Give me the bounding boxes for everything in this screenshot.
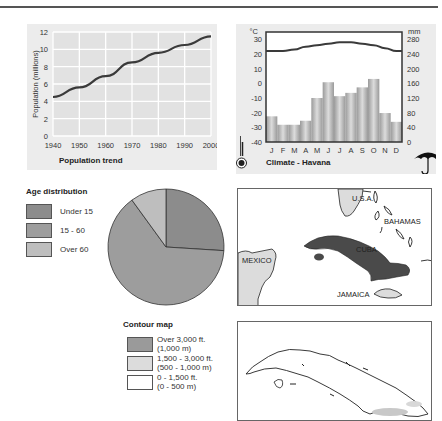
- x-tick-label: 1950: [71, 141, 88, 150]
- contour-label-line1: 1,500 - 3,000 ft.: [157, 354, 213, 363]
- rainfall-bar: [277, 125, 288, 142]
- age-legend-label: Over 60: [60, 245, 88, 254]
- celsius-unit: °C: [250, 27, 259, 36]
- population-ylabel: Population (millions): [31, 50, 40, 118]
- rainfall-bar: [300, 121, 311, 142]
- rainfall-tick-label: 200: [407, 65, 420, 74]
- map-label-jamaica: JAMAICA: [337, 290, 370, 299]
- contour-label-line2: (1,000 m): [157, 344, 191, 353]
- contour-swatch-mid: [127, 356, 153, 371]
- contour-legend-label: Over 3,000 ft. (1,000 m): [157, 335, 205, 353]
- month-label: S: [360, 146, 365, 155]
- pie-slice: [166, 189, 224, 251]
- age-swatch-under-15: [26, 204, 52, 219]
- age-swatch-15-60: [26, 223, 52, 238]
- age-pie-chart: [105, 183, 229, 315]
- x-tick-label: 1970: [124, 141, 141, 150]
- contour-map: [237, 321, 432, 421]
- population-title: Population trend: [59, 156, 123, 165]
- contour-legend-item: 0 - 1,500 ft. (0 - 500 m): [127, 373, 197, 391]
- map-label-bahamas: BAHAMAS: [384, 217, 421, 226]
- top-rule: [0, 6, 438, 8]
- temperature-tick-label: 30: [254, 35, 262, 44]
- rainfall-bar: [289, 125, 300, 142]
- rainfall-bar: [311, 98, 322, 142]
- contour-label-line2: (0 - 500 m): [157, 382, 196, 391]
- locator-map-graphic: U.S.A. BAHAMAS CUBA MEXICO JAMAICA: [238, 189, 432, 306]
- jamaica: [374, 289, 402, 298]
- x-tick-label: 1940: [45, 141, 62, 150]
- y-tick-label: 0: [44, 132, 48, 141]
- contour-label-line1: 0 - 1,500 ft.: [157, 373, 197, 382]
- population-panel: 024681012 1940195019601970198019902000 P…: [27, 24, 217, 170]
- contour-label-line2: (500 - 1,000 m): [157, 363, 212, 372]
- rainfall-bar: [345, 93, 356, 142]
- temperature-tick-label: -30: [251, 123, 262, 132]
- contour-map-graphic: [238, 322, 432, 421]
- y-tick-label: 6: [44, 80, 48, 89]
- rainfall-bar: [266, 116, 277, 142]
- cuba-outline: [246, 349, 428, 416]
- rainfall-bar: [391, 122, 402, 142]
- mm-unit: mm: [408, 27, 421, 36]
- contour-swatch-low: [127, 375, 153, 390]
- rainfall-tick-label: 240: [407, 50, 420, 59]
- x-tick-label: 1990: [176, 141, 193, 150]
- temperature-tick-label: 10: [254, 65, 262, 74]
- age-legend-title: Age distribution: [26, 187, 87, 196]
- y-tick-label: 4: [44, 97, 48, 106]
- temperature-tick-label: -40: [251, 138, 262, 147]
- month-label: A: [348, 146, 353, 155]
- rainfall-bar: [323, 82, 334, 142]
- contour-legend-item: 1,500 - 3,000 ft. (500 - 1,000 m): [127, 354, 213, 372]
- x-tick-label: 1960: [97, 141, 114, 150]
- rainfall-bar: [334, 96, 345, 142]
- y-tick-label: 12: [40, 28, 48, 37]
- age-legend-item: Under 15: [26, 204, 93, 219]
- age-legend-item: 15 - 60: [26, 223, 85, 238]
- contour-label-line1: Over 3,000 ft.: [157, 335, 205, 344]
- contour-swatch-high: [127, 337, 153, 352]
- rainfall-bar: [368, 79, 379, 142]
- map-label-mexico: MEXICO: [242, 256, 272, 265]
- rainfall-tick-label: 160: [407, 79, 420, 88]
- rainfall-tick-label: 120: [407, 94, 420, 103]
- month-label: J: [270, 146, 274, 155]
- y-tick-label: 8: [44, 63, 48, 72]
- month-label: F: [281, 146, 286, 155]
- temperature-tick-label: 0: [258, 79, 262, 88]
- umbrella-icon: [414, 153, 436, 175]
- rainfall-bar: [357, 87, 368, 142]
- climate-chart: 3020100-10-20-30-40 28024020016012080400…: [236, 24, 436, 174]
- x-tick-label: 1980: [150, 141, 167, 150]
- rainfall-tick-label: 40: [407, 123, 415, 132]
- temperature-tick-label: -10: [251, 94, 262, 103]
- y-tick-label: 2: [44, 115, 48, 124]
- contour-legend-label: 0 - 1,500 ft. (0 - 500 m): [157, 373, 197, 391]
- thermometer-icon: [237, 136, 247, 168]
- temperature-tick-label: -20: [251, 109, 262, 118]
- climate-panel: 3020100-10-20-30-40 28024020016012080400…: [236, 24, 436, 174]
- isla-de-la-juventud-outline: [274, 379, 283, 388]
- y-tick-label: 10: [40, 45, 48, 54]
- temperature-tick-label: 20: [254, 50, 262, 59]
- climate-title: Climate - Havana: [266, 158, 331, 167]
- map-label-usa: U.S.A.: [352, 194, 374, 203]
- isla-de-la-juventud: [314, 254, 324, 261]
- rainfall-bar: [379, 113, 390, 142]
- age-legend-label: Under 15: [60, 207, 93, 216]
- month-label: J: [338, 146, 342, 155]
- month-label: A: [303, 146, 308, 155]
- month-label: N: [382, 146, 387, 155]
- month-label: D: [394, 146, 400, 155]
- age-legend-item: Over 60: [26, 242, 88, 257]
- contour-legend-item: Over 3,000 ft. (1,000 m): [127, 335, 205, 353]
- month-label: M: [291, 146, 297, 155]
- month-label: M: [314, 146, 320, 155]
- contour-legend-label: 1,500 - 3,000 ft. (500 - 1,000 m): [157, 354, 213, 372]
- eastern-highland: [406, 401, 422, 407]
- rainfall-tick-label: 80: [407, 109, 415, 118]
- population-chart: 024681012 1940195019601970198019902000 P…: [27, 24, 217, 170]
- age-legend-label: 15 - 60: [60, 226, 85, 235]
- rainfall-tick-label: 280: [407, 35, 420, 44]
